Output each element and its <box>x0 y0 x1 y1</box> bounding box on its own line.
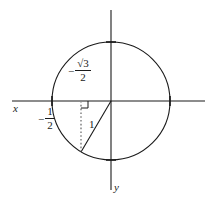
x-coordinate-denominator: 2 <box>45 119 55 132</box>
y-coordinate-label: − √3 2 <box>68 58 91 84</box>
radius-segment <box>81 101 111 152</box>
x-coordinate-fraction: 1 2 <box>45 105 55 131</box>
unit-circle-graphic <box>0 0 216 203</box>
y-coordinate-numerator: √3 <box>75 57 91 71</box>
x-axis-label: x <box>13 103 18 114</box>
y-axis-label: y <box>114 182 119 193</box>
y-coordinate-fraction: √3 2 <box>75 57 91 83</box>
y-coordinate-minus-sign: − <box>68 66 75 77</box>
radius-length-label: 1 <box>89 119 95 130</box>
y-coordinate-denominator: 2 <box>75 71 91 84</box>
x-coordinate-minus-sign: − <box>38 114 45 125</box>
right-angle-marker <box>81 101 88 108</box>
x-coordinate-label: − 1 2 <box>38 106 55 132</box>
x-coordinate-numerator: 1 <box>45 105 55 119</box>
unit-circle-figure: x y − 1 2 − √3 2 1 <box>0 0 216 203</box>
